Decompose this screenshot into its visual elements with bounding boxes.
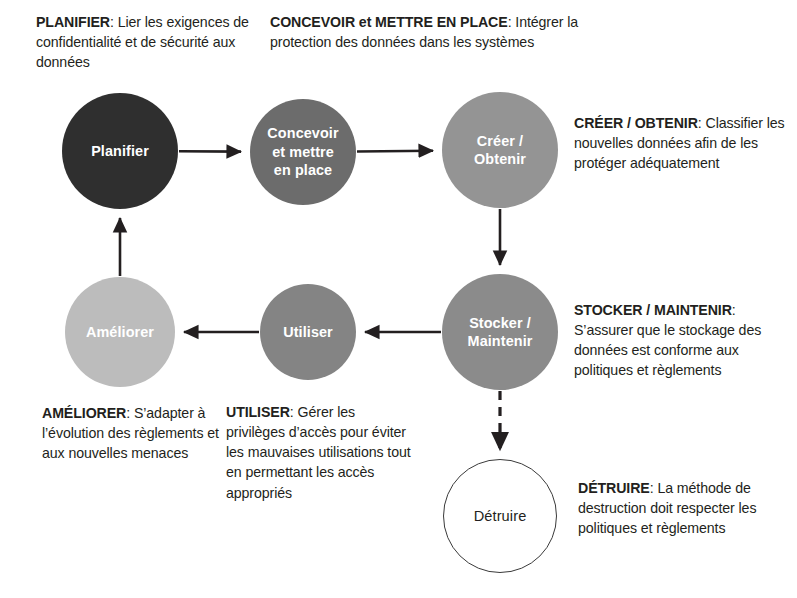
annotation-utiliser: UTILISER: Gérer les privilèges d’accès p…: [226, 402, 411, 503]
node-detruire[interactable]: Détruire: [443, 459, 557, 573]
node-utiliser[interactable]: Utiliser: [260, 284, 356, 380]
node-utiliser-label: Utiliser: [283, 323, 333, 341]
node-concevoir-label: Concevoir et mettre en place: [267, 124, 338, 179]
annotation-stocker: STOCKER / MAINTENIR: S’assurer que le st…: [574, 300, 779, 381]
annotation-utiliser-lead: UTILISER: [226, 404, 290, 420]
connector-concevoir-to-creer: [357, 151, 433, 152]
node-detruire-label: Détruire: [474, 507, 527, 526]
annotation-ameliorer: AMÉLIORER: S’adapter à l’évolution des r…: [42, 403, 222, 463]
annotation-concevoir-lead: CONCEVOIR et METTRE EN PLACE: [270, 14, 508, 30]
node-stocker-label: Stocker / Maintenir: [468, 314, 533, 351]
annotation-detruire-lead: DÉTRUIRE: [578, 480, 650, 496]
diagram-canvas: Planifier Concevoir et mettre en place C…: [0, 0, 797, 598]
node-planifier-label: Planifier: [91, 142, 149, 160]
node-ameliorer[interactable]: Améliorer: [65, 277, 175, 387]
annotation-creer-lead: CRÉER / OBTENIR: [574, 115, 698, 131]
annotation-planifier-lead: PLANIFIER: [36, 14, 110, 30]
node-creer-obtenir[interactable]: Créer / Obtenir: [442, 92, 558, 208]
annotation-creer: CRÉER / OBTENIR: Classifier les nouvelle…: [574, 113, 789, 173]
annotation-detruire: DÉTRUIRE: La méthode de destruction doit…: [578, 478, 790, 538]
node-creer-label: Créer / Obtenir: [474, 132, 526, 169]
annotation-concevoir: CONCEVOIR et METTRE EN PLACE: Intégrer l…: [270, 12, 600, 52]
annotation-planifier: PLANIFIER: Lier les exigences de confide…: [36, 12, 258, 72]
node-ameliorer-label: Améliorer: [86, 323, 154, 341]
annotation-ameliorer-lead: AMÉLIORER: [42, 405, 126, 421]
node-concevoir-et-mettre-en-place[interactable]: Concevoir et mettre en place: [250, 99, 356, 205]
node-stocker-maintenir[interactable]: Stocker / Maintenir: [442, 274, 558, 390]
annotation-stocker-lead: STOCKER / MAINTENIR: [574, 302, 732, 318]
node-planifier[interactable]: Planifier: [62, 93, 178, 209]
